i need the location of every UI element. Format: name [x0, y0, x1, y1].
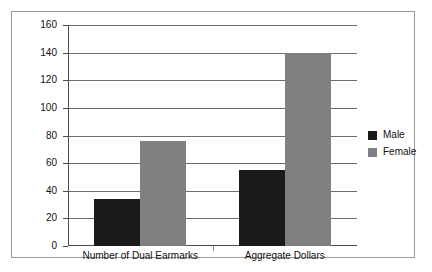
y-tick-mark: [63, 136, 68, 137]
y-tick-label: 0: [23, 241, 57, 251]
legend-swatch-female-icon: [368, 148, 377, 157]
legend-label-female: Female: [383, 147, 416, 157]
bar-female-0: [140, 141, 186, 246]
y-tick-label: 120: [23, 75, 57, 85]
y-tick-label: 140: [23, 48, 57, 58]
y-tick-label: 80: [23, 131, 57, 141]
y-tick-label: 160: [23, 20, 57, 30]
y-tick-mark: [63, 53, 68, 54]
legend-swatch-male-icon: [368, 131, 377, 140]
chart-legend: Male Female: [368, 130, 416, 164]
y-tick-mark: [63, 191, 68, 192]
bar-male-1: [239, 170, 285, 246]
chart-frame: 020406080100120140160 Number of Dual Ear…: [11, 11, 415, 258]
y-tick-label: 60: [23, 158, 57, 168]
y-tick-mark: [63, 163, 68, 164]
y-axis-line: [68, 25, 69, 246]
y-tick-mark: [63, 218, 68, 219]
category-label: Aggregate Dollars: [213, 250, 358, 262]
y-tick-mark: [63, 25, 68, 26]
legend-item-female: Female: [368, 147, 416, 157]
legend-item-male: Male: [368, 130, 416, 140]
y-tick-label: 100: [23, 103, 57, 113]
legend-label-male: Male: [383, 130, 405, 140]
y-tick-label: 20: [23, 213, 57, 223]
y-tick-mark: [63, 80, 68, 81]
category-label: Number of Dual Earmarks: [68, 250, 213, 262]
bar-female-1: [285, 53, 331, 246]
y-tick-label: 40: [23, 186, 57, 196]
y-tick-mark: [63, 246, 68, 247]
y-tick-mark: [63, 108, 68, 109]
gridline: [68, 25, 357, 26]
bar-male-0: [94, 199, 140, 246]
